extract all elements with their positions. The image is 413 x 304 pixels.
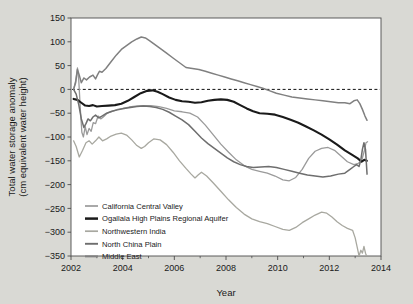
x-tick-label: 2004 [113,263,133,273]
y-axis-title-line2: (cm equivalent water height) [17,77,28,196]
x-tick-label: 2002 [61,263,81,273]
y-tick-label: −50 [50,108,65,118]
y-tick-label: −250 [45,204,65,214]
y-tick-label: 0 [60,85,65,95]
y-tick-label: 100 [50,37,65,47]
x-tick-label: 2012 [319,263,339,273]
legend-label: Middle East [102,252,143,261]
y-tick-label: −200 [45,180,65,190]
y-tick-label: −100 [45,132,65,142]
y-tick-label: −300 [45,227,65,237]
x-tick-label: 2006 [164,263,184,273]
y-tick-label: −350 [45,251,65,261]
y-axis-title: Total water storage anomaly(cm equivalen… [6,77,28,196]
y-tick-label: −150 [45,156,65,166]
water-storage-anomaly-chart: 150100500−50−100−150−200−250−300−3502002… [0,0,413,304]
legend-label: North China Plain [102,240,162,249]
y-tick-label: 50 [55,61,65,71]
x-tick-label: 2014 [371,263,391,273]
y-axis-title-line1: Total water storage anomaly [6,77,17,196]
legend-label: Northwestern India [102,227,167,236]
x-axis-title: Year [216,287,235,298]
x-tick-label: 2008 [216,263,236,273]
y-tick-label: 150 [50,13,65,23]
legend-label: California Central Valley [102,202,183,211]
x-tick-label: 2010 [268,263,288,273]
legend-label: Ogallala High Plains Regional Aquifer [102,214,229,223]
